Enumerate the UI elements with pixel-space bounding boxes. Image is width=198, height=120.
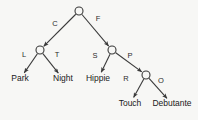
edge-label-l: L <box>22 50 26 59</box>
edge-label-f: F <box>96 14 101 23</box>
tree-node-rr <box>142 71 150 79</box>
tree-edge-l <box>24 54 37 73</box>
tree-node-root <box>75 7 83 15</box>
edge-label-p: P <box>127 51 132 60</box>
leaf-label-debutante: Debutante <box>152 98 191 108</box>
node-layer <box>36 7 150 79</box>
edge-label-s: S <box>92 51 97 60</box>
edge-label-t: T <box>55 50 60 59</box>
tree-diagram-svg: CFLTSPRO ParkNightHippieTouchDebutante <box>0 0 198 120</box>
tree-node-left <box>36 46 44 54</box>
tree-node-right <box>108 46 116 54</box>
leaf-label-park: Park <box>11 73 29 83</box>
tree-edge-s <box>101 54 110 72</box>
edge-label-c: C <box>52 19 58 28</box>
leaf-label-layer: ParkNightHippieTouchDebutante <box>11 73 192 108</box>
leaf-label-hippie: Hippie <box>86 73 110 83</box>
tree-edge-r <box>134 79 144 97</box>
tree-diagram-canvas: CFLTSPRO ParkNightHippieTouchDebutante <box>0 0 198 120</box>
tree-edge-c <box>44 14 76 46</box>
leaf-label-night: Night <box>53 73 73 83</box>
leaf-label-touch: Touch <box>119 98 142 108</box>
edge-label-r: R <box>123 74 129 83</box>
edge-label-o: O <box>158 76 164 85</box>
